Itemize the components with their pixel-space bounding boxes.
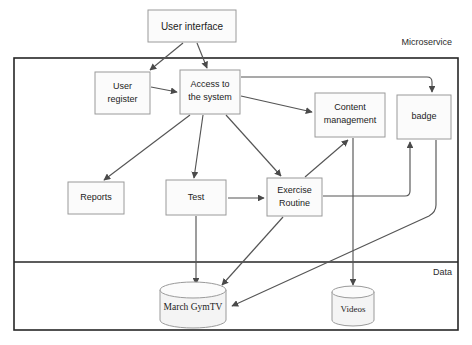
node-content-management[interactable]: Content management <box>315 93 385 137</box>
database-videos-label: Videos <box>341 304 366 314</box>
edge-exercise-routine-to-content-management <box>305 140 348 177</box>
node-user-register-label-line1: User <box>113 81 132 91</box>
edge-access-to-system-to-exercise-routine <box>226 115 281 176</box>
database-march-gymtv[interactable]: March GymTV <box>160 282 226 328</box>
node-reports[interactable]: Reports <box>68 182 124 214</box>
node-user-register[interactable]: User register <box>95 72 150 114</box>
edge-access-to-system-to-badge <box>241 77 432 92</box>
node-user-register-label-line2: register <box>107 94 137 104</box>
node-badge[interactable]: badge <box>397 95 451 139</box>
edge-user-interface-to-user-register <box>150 43 183 70</box>
microservice-zone-label: Microservice <box>401 37 452 47</box>
data-zone-label: Data <box>433 267 452 277</box>
node-user-interface-label: User interface <box>161 21 224 32</box>
edge-user-interface-to-access-to-system <box>197 43 207 68</box>
edge-user-register-to-access-to-system <box>151 87 177 92</box>
edge-access-to-system-to-test <box>194 115 203 178</box>
node-content-management-label-line1: Content <box>334 102 366 112</box>
edge-access-to-system-to-content-management <box>241 96 312 112</box>
node-exercise-routine-label-line1: Exercise <box>277 185 312 195</box>
node-reports-label: Reports <box>80 192 112 202</box>
node-exercise-routine[interactable]: Exercise Routine <box>267 178 322 216</box>
node-test-label: Test <box>188 192 205 202</box>
database-march-gymtv-label: March GymTV <box>164 302 223 312</box>
node-access-to-system-label-line2: the system <box>188 92 232 102</box>
node-access-to-system[interactable]: Access to the system <box>180 70 240 114</box>
node-access-to-system-label-line1: Access to <box>190 79 229 89</box>
node-content-management-label-line2: management <box>324 115 377 125</box>
database-videos[interactable]: Videos <box>332 286 374 326</box>
node-badge-label: badge <box>411 111 436 121</box>
edge-badge-to-march-gymtv <box>232 140 436 306</box>
architecture-diagram: Microservice Data <box>0 0 472 345</box>
node-exercise-routine-label-line2: Routine <box>279 198 310 208</box>
edge-exercise-routine-to-march-gymtv <box>222 217 283 285</box>
edge-layer <box>104 43 436 306</box>
node-user-interface[interactable]: User interface <box>148 10 236 42</box>
edge-access-to-system-to-reports <box>104 115 190 180</box>
node-test[interactable]: Test <box>166 180 226 215</box>
